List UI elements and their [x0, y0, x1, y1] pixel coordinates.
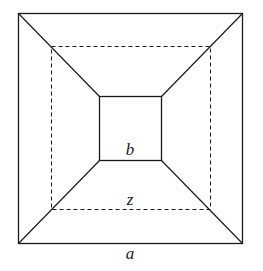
edge-top-left — [19, 14, 100, 97]
edge-bottom-right — [162, 161, 243, 244]
label-outer-a: a — [126, 244, 135, 263]
edge-bottom-left — [19, 161, 100, 244]
label-middle-z: z — [126, 190, 134, 209]
edge-top-right — [162, 14, 243, 97]
label-inner-b: b — [126, 140, 135, 159]
frustum-diagram: b z a — [0, 0, 263, 271]
